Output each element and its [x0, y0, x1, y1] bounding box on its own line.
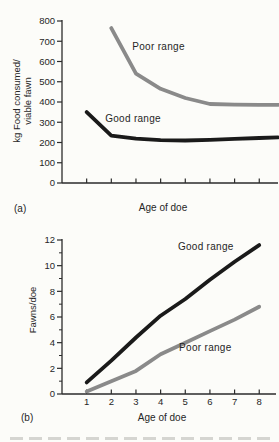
- y-tick-label: 4: [50, 337, 55, 348]
- poor-range-line: [111, 28, 278, 105]
- y-tick-label: 2: [50, 363, 55, 374]
- good-range-label: Good range: [105, 113, 161, 124]
- y-tick-label: 700: [39, 36, 55, 47]
- poor-range-line: [87, 307, 260, 392]
- y-tick-label: 600: [39, 56, 55, 67]
- x-axis-title: Age of doe: [138, 412, 187, 423]
- y-tick-label: 0: [50, 388, 55, 399]
- chart-b-canvas: 12345678024681012Good rangePoor rangeAge…: [0, 221, 279, 442]
- cropped-caption-remnant: [10, 437, 270, 440]
- good-range-line: [87, 245, 260, 382]
- chart-a-panel: 0100200300400500600700800Poor rangeGood …: [0, 0, 279, 221]
- y-tick-label: 300: [39, 117, 55, 128]
- x-tick-label: 7: [232, 396, 237, 407]
- x-axis-title: Age of doe: [139, 202, 188, 213]
- y-tick-label: 10: [44, 260, 55, 271]
- x-tick-label: 4: [158, 396, 163, 407]
- y-tick-label: 0: [50, 177, 55, 188]
- x-tick-label: 2: [109, 396, 114, 407]
- x-tick-label: 8: [257, 396, 262, 407]
- x-tick-label: 6: [207, 396, 212, 407]
- x-tick-label: 1: [84, 396, 89, 407]
- fawn-nutrition-figure: 0100200300400500600700800Poor rangeGood …: [0, 0, 279, 442]
- y-axis-title: Fawns/doe: [27, 287, 38, 333]
- poor-range-label: Poor range: [179, 342, 232, 353]
- y-tick-label: 800: [39, 15, 55, 26]
- chart-a-canvas: 0100200300400500600700800Poor rangeGood …: [0, 0, 279, 221]
- chart-b-panel: 12345678024681012Good rangePoor rangeAge…: [0, 221, 279, 442]
- y-tick-label: 200: [39, 137, 55, 148]
- y-tick-label: 6: [50, 311, 55, 322]
- poor-range-label: Poor range: [132, 41, 185, 52]
- y-tick-label: 400: [39, 96, 55, 107]
- y-tick-label: 8: [50, 286, 55, 297]
- y-tick-label: 500: [39, 76, 55, 87]
- panel-label-b: (b): [21, 412, 33, 423]
- y-axis-title: viable fawn: [22, 77, 33, 125]
- x-tick-label: 5: [183, 396, 188, 407]
- x-tick-label: 3: [133, 396, 138, 407]
- y-axis-title: kg Food consumed/: [11, 59, 22, 143]
- y-tick-label: 12: [44, 234, 55, 245]
- good-range-label: Good range: [178, 241, 234, 252]
- panel-label-a: (a): [14, 203, 26, 214]
- y-tick-label: 100: [39, 157, 55, 168]
